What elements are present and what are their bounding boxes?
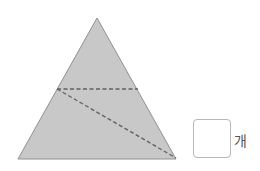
unit-label: 개: [234, 130, 247, 150]
answer-input-box[interactable]: [193, 119, 231, 158]
